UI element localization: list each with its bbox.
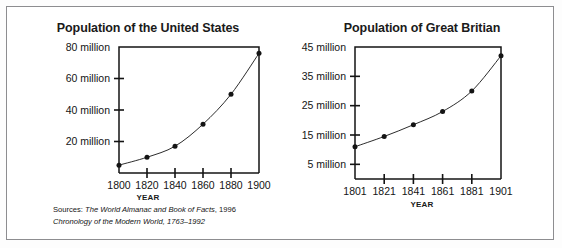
x-axis-title-great-britain: YEAR <box>289 200 555 209</box>
data-line <box>355 56 501 147</box>
source-prefix: Sources: <box>53 205 83 214</box>
data-point-marker <box>411 122 416 127</box>
y-axis-tick-label: 15 million <box>302 129 347 141</box>
figure-container: Population of the United States 20 milli… <box>0 0 562 248</box>
source-title-2: Chronology of the Modern World, 1763–199… <box>53 217 205 226</box>
source-year-1: , 1996 <box>215 205 236 214</box>
x-axis-tick-label: 1820 <box>135 179 159 191</box>
data-point-marker <box>440 109 445 114</box>
data-point-marker <box>353 144 358 149</box>
source-line-1: Sources: The World Almanac and Book of F… <box>53 204 236 216</box>
x-axis-tick-label: 1840 <box>163 179 187 191</box>
plot-united-states: 20 million40 million60 million80 million… <box>7 7 289 197</box>
x-axis-tick-label: 1801 <box>343 185 367 197</box>
y-axis-tick-label: 20 million <box>66 135 111 147</box>
x-axis-tick-label: 1900 <box>247 179 271 191</box>
x-axis-title-united-states: YEAR <box>7 193 289 202</box>
data-point-marker <box>229 92 234 97</box>
source-title-1: The World Almanac and Book of Facts <box>85 205 215 214</box>
data-point-marker <box>117 163 122 168</box>
data-point-marker <box>469 89 474 94</box>
chart-panel-great-britain: Population of Great Britian 5 million15 … <box>289 7 555 241</box>
data-point-marker <box>173 144 178 149</box>
source-line-2: Chronology of the Modern World, 1763–199… <box>53 216 236 228</box>
x-axis-tick-label: 1880 <box>219 179 243 191</box>
data-point-marker <box>257 51 262 56</box>
y-axis-tick-label: 25 million <box>302 99 347 111</box>
y-axis-tick-label: 45 million <box>302 41 347 53</box>
data-point-marker <box>145 155 150 160</box>
figure-border: Population of the United States 20 milli… <box>6 6 554 240</box>
plot-great-britain: 5 million15 million25 million35 million4… <box>289 7 555 203</box>
data-point-marker <box>201 122 206 127</box>
x-axis-tick-label: 1841 <box>402 185 426 197</box>
data-line <box>119 53 259 165</box>
y-axis-tick-label: 40 million <box>66 104 111 116</box>
plot-frame <box>355 47 501 179</box>
x-axis-tick-label: 1821 <box>373 185 397 197</box>
x-axis-tick-label: 1860 <box>191 179 215 191</box>
source-citation: Sources: The World Almanac and Book of F… <box>53 204 236 227</box>
y-axis-tick-label: 35 million <box>302 70 347 82</box>
x-axis-tick-label: 1881 <box>460 185 484 197</box>
x-axis-tick-label: 1901 <box>489 185 513 197</box>
y-axis-tick-label: 80 million <box>66 41 111 53</box>
data-point-marker <box>382 134 387 139</box>
y-axis-tick-label: 5 million <box>307 158 346 170</box>
x-axis-tick-label: 1861 <box>431 185 455 197</box>
y-axis-tick-label: 60 million <box>66 72 111 84</box>
plot-frame <box>119 47 259 173</box>
x-axis-tick-label: 1800 <box>107 179 131 191</box>
data-point-marker <box>499 53 504 58</box>
